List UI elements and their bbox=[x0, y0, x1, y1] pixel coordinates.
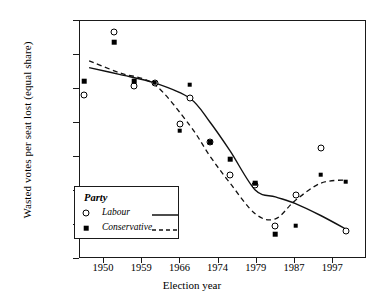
x-tick-mark bbox=[179, 258, 180, 263]
solid-line-icon bbox=[152, 213, 178, 217]
data-point-labour bbox=[81, 91, 88, 98]
data-point-labour bbox=[292, 192, 299, 199]
data-point-labour bbox=[111, 28, 118, 35]
x-tick-mark bbox=[103, 258, 104, 263]
x-tick-mark bbox=[294, 258, 295, 263]
legend-item-conservative: Conservative bbox=[84, 222, 176, 236]
data-point-labour bbox=[227, 171, 234, 178]
x-tick-mark bbox=[256, 258, 257, 263]
data-point-labour bbox=[186, 95, 193, 102]
legend: Party Labour Conservative bbox=[74, 186, 179, 239]
legend-label-conservative: Conservative bbox=[102, 222, 152, 232]
data-point-conservative bbox=[112, 40, 117, 45]
data-point-conservative bbox=[273, 232, 278, 237]
y-axis-title: Wasted votes per seat lost (equal share) bbox=[21, 0, 33, 260]
data-point-conservative bbox=[318, 172, 323, 177]
data-point-conservative bbox=[228, 157, 233, 162]
data-point-labour bbox=[342, 227, 349, 234]
data-point-conservative bbox=[187, 82, 192, 87]
data-point-conservative bbox=[344, 179, 349, 184]
x-tick-mark bbox=[141, 258, 142, 263]
x-tick-mark bbox=[332, 258, 333, 263]
data-point-labour bbox=[272, 222, 279, 229]
legend-title: Party bbox=[84, 192, 107, 203]
data-point-labour bbox=[176, 120, 183, 127]
dashed-line-icon bbox=[152, 228, 178, 232]
legend-label-labour: Labour bbox=[102, 207, 130, 217]
x-tick-mark bbox=[218, 258, 219, 263]
x-axis-title: Election year bbox=[0, 279, 384, 291]
data-point-conservative bbox=[293, 223, 298, 228]
x-tick-label: 1997 bbox=[302, 262, 362, 273]
open-circle-icon bbox=[83, 210, 90, 217]
data-point-labour bbox=[317, 144, 324, 151]
y-tick-mark bbox=[73, 258, 79, 259]
data-point-conservative bbox=[253, 181, 258, 186]
legend-item-labour: Labour bbox=[84, 207, 176, 221]
data-point-labour bbox=[131, 83, 138, 90]
data-point-conservative bbox=[82, 79, 87, 84]
data-point-conservative bbox=[132, 79, 137, 84]
chart-container: Wasted votes per seat lost (equal share)… bbox=[0, 0, 384, 304]
filled-square-icon bbox=[84, 226, 89, 231]
data-point-conservative bbox=[208, 140, 213, 145]
data-point-conservative bbox=[177, 128, 182, 133]
data-point-conservative bbox=[152, 81, 157, 86]
